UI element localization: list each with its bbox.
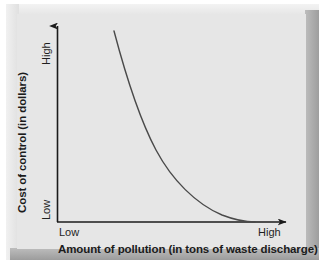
cost-of-control-curve [114,31,255,222]
y-axis-tick-low: Low [40,190,52,220]
x-axis-tick-high: High [258,226,281,238]
figure-root: Cost of control (in dollars) High Low Am… [0,0,325,270]
y-axis-tick-high: High [40,31,52,65]
x-axis-tick-low: Low [59,226,79,238]
x-axis-title: Amount of pollution (in tons of waste di… [58,243,318,255]
y-axis-title: Cost of control (in dollars) [16,63,28,213]
